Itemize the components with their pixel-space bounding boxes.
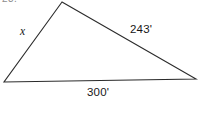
item-number-fragment: 23. (2, 0, 17, 4)
side-label-x: x (20, 26, 25, 38)
triangle-figure: 23. x 243' 300' (0, 0, 200, 113)
side-label-300: 300' (87, 87, 109, 99)
side-label-243: 243' (130, 24, 152, 36)
triangle-outline (4, 2, 196, 82)
